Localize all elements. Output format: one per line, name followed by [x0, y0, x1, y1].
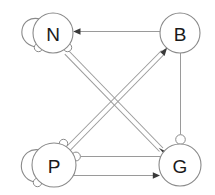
edge-p-to-g-activation-arrowhead — [153, 172, 160, 178]
edge-p-to-b-arrowhead — [160, 48, 167, 56]
node-n[interactable]: N — [33, 13, 73, 53]
edge-n-to-g-line-b — [65, 54, 160, 151]
edge-p-to-g-inhibition — [72, 152, 161, 161]
node-n-label: N — [46, 24, 60, 45]
edge-b-to-g-inhibition-circle — [176, 135, 186, 145]
edge-n-to-g — [63, 43, 166, 152]
edge-p-to-b — [59, 48, 167, 150]
graph-canvas: N B P G — [0, 0, 215, 195]
node-g-label: G — [173, 156, 188, 177]
node-b[interactable]: B — [160, 13, 200, 53]
edge-n-to-g-line-a — [69, 51, 164, 149]
node-p[interactable]: P — [32, 143, 76, 187]
network-diagram: N B P G — [0, 0, 215, 195]
node-p-label: P — [48, 156, 61, 177]
node-b-label: B — [174, 24, 187, 45]
node-g[interactable]: G — [159, 144, 201, 186]
edge-b-to-n-arrowhead — [73, 28, 80, 34]
edge-b-to-g — [176, 53, 186, 144]
edge-b-to-n — [73, 28, 160, 34]
edge-p-to-g-activation — [63, 172, 160, 178]
